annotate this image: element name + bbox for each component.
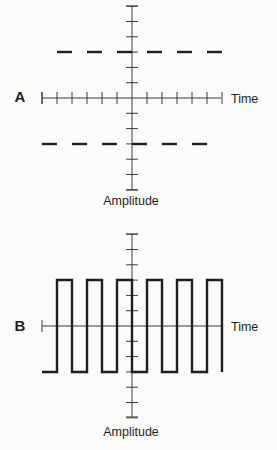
panel-b: B Time Amplitude <box>15 234 259 439</box>
panel-a-time-label: Time <box>231 92 258 106</box>
panel-a-axes <box>42 6 222 190</box>
panel-a-label: A <box>15 88 26 105</box>
panel-b-amplitude-label: Amplitude <box>103 425 159 439</box>
panel-b-time-label: Time <box>231 320 258 334</box>
panel-b-label: B <box>15 317 26 334</box>
panel-a: A Time Amplitude <box>15 6 259 208</box>
diagram-canvas: A Time Amplitude B Time Amplitude <box>0 0 277 450</box>
panel-a-amplitude-label: Amplitude <box>103 194 159 208</box>
